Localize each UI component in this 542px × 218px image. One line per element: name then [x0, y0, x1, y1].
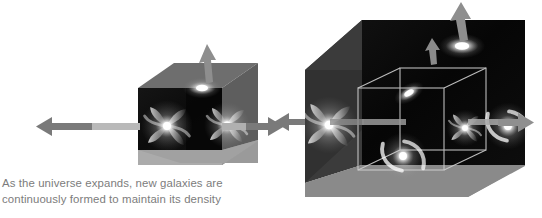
large-cube-galaxy-center [447, 110, 484, 147]
caption-line-1: As the universe expands, new galaxies ar… [2, 176, 292, 192]
small-cube-galaxy-left [141, 100, 193, 152]
large-cube-galaxy-bottom [379, 132, 426, 179]
small-cube-galaxy-top [183, 78, 221, 99]
figure-caption: As the universe expands, new galaxies ar… [2, 176, 292, 207]
large-cube-arrow-left [330, 119, 406, 125]
caption-line-2: continuously formed to maintain its dens… [2, 192, 292, 208]
